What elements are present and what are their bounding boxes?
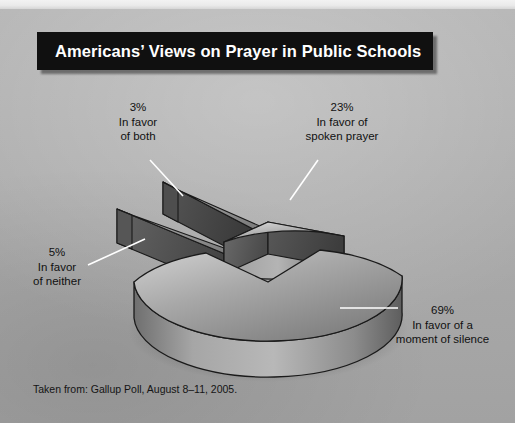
leader-line-spoken: [290, 160, 318, 200]
callout-spoken-line2: spoken prayer: [282, 129, 402, 144]
source-note: Taken from: Gallup Poll, August 8–11, 20…: [33, 383, 237, 395]
callout-spoken-line1: In favor of: [282, 115, 402, 130]
callout-both-line2: of both: [97, 129, 179, 144]
chart-page: Americans’ Views on Prayer in Public Sch…: [0, 0, 515, 423]
callout-silence-line1: In favor of a: [375, 318, 510, 333]
callout-label-both: 3% In favor of both: [97, 100, 179, 144]
pie-chart: [0, 0, 515, 423]
callout-spoken-percent: 23%: [282, 100, 402, 115]
pie-slice-neither-side-left: [117, 209, 132, 249]
callout-neither-line1: In favor: [14, 260, 100, 275]
callout-label-neither: 5% In favor of neither: [14, 245, 100, 289]
callout-label-spoken: 23% In favor of spoken prayer: [282, 100, 402, 144]
callout-neither-line2: of neither: [14, 274, 100, 289]
callout-neither-percent: 5%: [14, 245, 100, 260]
callout-silence-percent: 69%: [375, 303, 510, 318]
callout-silence-line2: moment of silence: [375, 332, 510, 347]
callout-label-silence: 69% In favor of a moment of silence: [375, 303, 510, 347]
callout-both-percent: 3%: [97, 100, 179, 115]
callout-both-line1: In favor: [97, 115, 179, 130]
